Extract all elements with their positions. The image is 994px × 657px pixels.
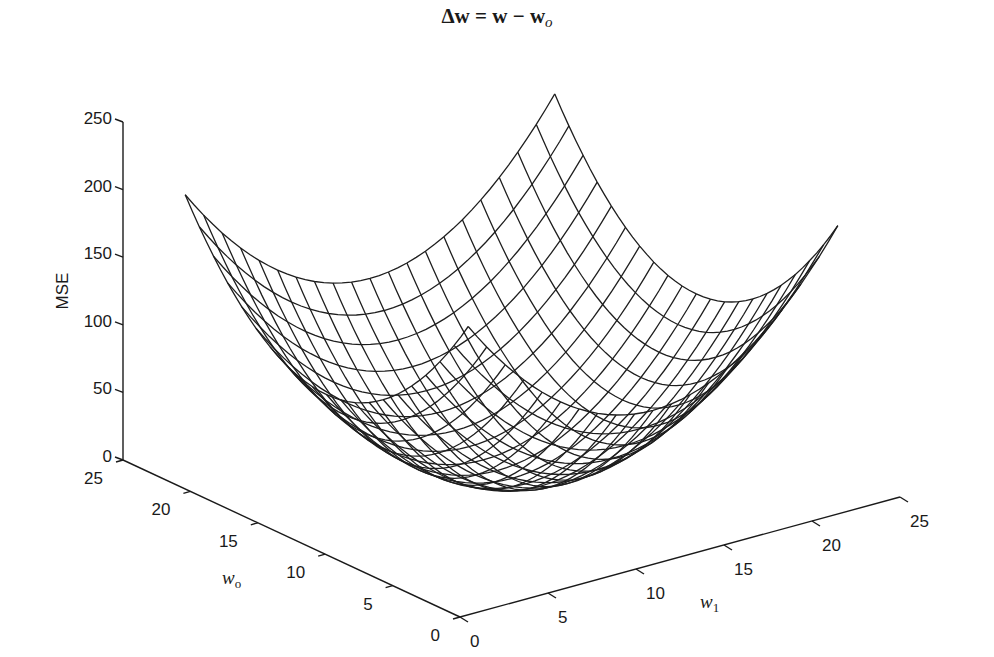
z-tick — [115, 187, 123, 190]
mesh-line-w0 — [185, 94, 555, 283]
z-tick-label: 0 — [103, 447, 112, 466]
w1-tick — [548, 593, 556, 598]
mesh-line-w1 — [555, 94, 838, 302]
z-axis-title: MSE — [53, 273, 72, 310]
axis-labels: MSE wo w1 — [53, 273, 719, 615]
w0-axis-line — [123, 460, 460, 617]
w0-axis-title: wo — [222, 567, 241, 591]
w1-axis-line — [460, 497, 900, 617]
w0-tick-label: 10 — [286, 563, 305, 582]
w1-tick-label: 0 — [470, 632, 479, 651]
mesh-line-w1 — [259, 260, 542, 468]
w1-tick-label: 25 — [910, 512, 929, 531]
w1-tick-label: 5 — [558, 608, 567, 627]
mesh-line-w1 — [499, 177, 782, 385]
w1-tick — [724, 545, 732, 550]
mesh-line-w0 — [327, 294, 697, 483]
mesh-line-w0 — [468, 226, 838, 415]
w1-tick-label: 15 — [734, 560, 753, 579]
mesh-line-w0 — [426, 274, 796, 463]
z-tick — [115, 254, 123, 257]
mesh-line-w0 — [214, 155, 584, 344]
w0-tick — [453, 617, 460, 619]
w0-tick-label: 25 — [84, 469, 103, 488]
w0-tick — [183, 491, 190, 493]
mesh-line-w1 — [185, 195, 468, 403]
w0-tick-label: 0 — [431, 626, 440, 645]
w0-tick — [318, 554, 325, 556]
w0-tick-label: 5 — [363, 595, 372, 614]
w1-axis-title: w1 — [700, 591, 719, 615]
w1-tick — [812, 521, 820, 526]
axes: 05010015020025005101520250510152025 — [84, 109, 929, 651]
mesh-line-w1 — [518, 152, 801, 360]
w1-tick-label: 20 — [822, 536, 841, 555]
z-tick — [115, 322, 123, 325]
z-tick — [115, 389, 123, 392]
w0-tick — [386, 586, 393, 588]
w0-tick — [116, 460, 123, 462]
mesh-line-w1 — [333, 283, 616, 491]
z-tick-label: 50 — [93, 379, 112, 398]
w0-tick-label: 15 — [219, 532, 238, 551]
surface-plot: 05010015020025005101520250510152025 MSE … — [0, 0, 994, 657]
z-tick-label: 250 — [84, 109, 112, 128]
mesh-line-w0 — [242, 206, 612, 395]
mesh-line-w0 — [199, 126, 569, 315]
w0-tick — [251, 523, 258, 525]
w0-tick-label: 20 — [151, 500, 170, 519]
z-tick-label: 150 — [84, 244, 112, 263]
w1-tick — [636, 569, 644, 574]
z-tick — [115, 457, 123, 460]
z-tick-label: 200 — [84, 177, 112, 196]
z-tick-label: 100 — [84, 312, 112, 331]
w1-tick-label: 10 — [646, 584, 665, 603]
surface-mesh — [185, 94, 838, 491]
w1-tick — [460, 617, 468, 622]
z-tick — [115, 119, 123, 122]
w1-tick — [900, 497, 908, 502]
mesh-line-w1 — [536, 124, 819, 332]
